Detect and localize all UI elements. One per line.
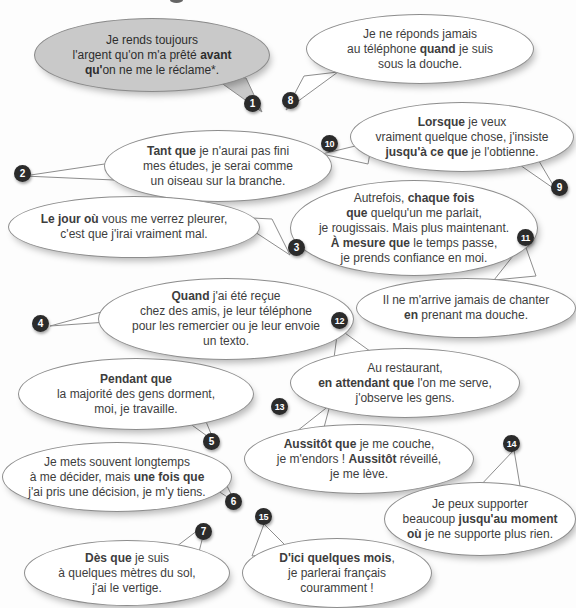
speech-bubble-7[interactable]: Dès que je suisà quelques mètres du sol,…	[24, 540, 230, 606]
page-edge-artifact	[170, 0, 183, 3]
badge-15[interactable]: 15	[255, 508, 272, 525]
speech-bubble-10[interactable]: Autrefois, chaque foisque quelqu'un me p…	[290, 180, 538, 276]
badge-5[interactable]: 5	[203, 433, 220, 450]
bubble-text-3: Le jour où vous me verrez pleurer,c'est …	[9, 212, 259, 242]
bubble-text-9: Lorsque je veuxvraiment quelque chose, j…	[351, 115, 573, 160]
badge-7[interactable]: 7	[195, 523, 212, 540]
badge-3[interactable]: 3	[288, 239, 305, 256]
badge-11[interactable]: 11	[517, 229, 534, 246]
badge-2[interactable]: 2	[14, 165, 31, 182]
badge-12[interactable]: 12	[331, 312, 348, 329]
badge-14[interactable]: 14	[503, 435, 520, 452]
speech-bubble-15[interactable]: D'ici quelques mois,je parlerai français…	[242, 538, 432, 608]
speech-bubble-8[interactable]: Je ne réponds jamaisau téléphone quand j…	[306, 14, 534, 84]
speech-bubble-12[interactable]: Au restaurant,en attendant que l'on me s…	[290, 348, 520, 418]
speech-bubble-1[interactable]: Je rends toujoursl'argent qu'on m'a prêt…	[34, 18, 270, 92]
bubble-text-1: Je rends toujoursl'argent qu'on m'a prêt…	[35, 33, 269, 78]
bubble-text-12: Au restaurant,en attendant que l'on me s…	[291, 361, 519, 406]
bubble-text-10: Autrefois, chaque foisque quelqu'un me p…	[291, 191, 537, 266]
bubble-text-8: Je ne réponds jamaisau téléphone quand j…	[307, 27, 533, 72]
speech-bubble-9[interactable]: Lorsque je veuxvraiment quelque chose, j…	[350, 102, 574, 172]
bubble-text-11: Il ne m'arrive jamais de chanteren prena…	[357, 293, 575, 323]
badge-9[interactable]: 9	[551, 179, 568, 196]
bubble-text-4: Quand j'ai été reçuechez des amis, je le…	[99, 289, 353, 349]
badge-1[interactable]: 1	[244, 95, 261, 112]
speech-bubble-6[interactable]: Je mets souvent longtempsà me décider, m…	[2, 442, 232, 512]
bubble-text-15: D'ici quelques mois,je parlerai français…	[243, 551, 431, 596]
bubble-text-6: Je mets souvent longtempsà me décider, m…	[3, 455, 231, 500]
badge-4[interactable]: 4	[32, 315, 49, 332]
speech-bubble-3[interactable]: Le jour où vous me verrez pleurer,c'est …	[8, 196, 260, 258]
bubble-text-5: Pendant quela majorité des gens dorment,…	[19, 372, 253, 417]
bubble-text-14: Je peux supporterbeaucoup jusqu'au momen…	[385, 497, 575, 542]
badge-8[interactable]: 8	[282, 92, 299, 109]
bubble-text-2: Tant que je n'aurai pas finimes études, …	[105, 144, 331, 189]
speech-bubble-14[interactable]: Je peux supporterbeaucoup jusqu'au momen…	[384, 482, 576, 556]
badge-6[interactable]: 6	[225, 493, 242, 510]
bubble-text-13: Aussitôt que je me couche,je m'endors ! …	[245, 437, 473, 482]
badge-10[interactable]: 10	[321, 135, 338, 152]
bubble-text-7: Dès que je suisà quelques mètres du sol,…	[25, 551, 229, 596]
badge-13[interactable]: 13	[271, 398, 288, 415]
speech-bubble-4[interactable]: Quand j'ai été reçuechez des amis, je le…	[98, 278, 354, 360]
speech-bubble-5[interactable]: Pendant quela majorité des gens dorment,…	[18, 358, 254, 430]
speech-bubble-13[interactable]: Aussitôt que je me couche,je m'endors ! …	[244, 424, 474, 494]
speech-bubble-11[interactable]: Il ne m'arrive jamais de chanteren prena…	[356, 278, 576, 338]
